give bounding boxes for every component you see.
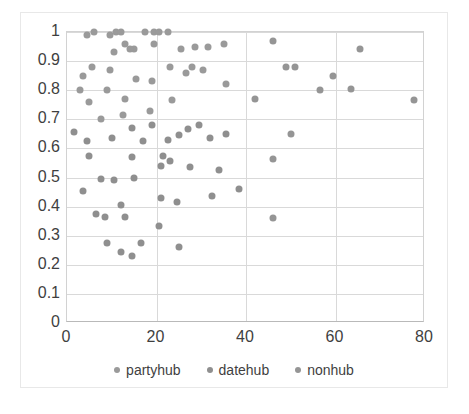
data-point bbox=[160, 152, 167, 159]
data-point bbox=[119, 111, 126, 118]
y-axis-tick-labels: 00.10.20.30.40.50.60.70.80.91 bbox=[0, 31, 60, 322]
data-point bbox=[110, 177, 117, 184]
data-point bbox=[164, 136, 171, 143]
data-point bbox=[184, 126, 191, 133]
data-point bbox=[151, 40, 158, 47]
data-point bbox=[146, 107, 153, 114]
data-point bbox=[117, 249, 124, 256]
data-point bbox=[292, 63, 299, 70]
data-point bbox=[84, 31, 91, 38]
gridline-horizontal bbox=[67, 265, 423, 266]
data-point bbox=[157, 162, 164, 169]
gridline-vertical bbox=[246, 32, 247, 321]
data-point bbox=[90, 29, 97, 36]
data-point bbox=[149, 122, 156, 129]
x-axis-tick-label: 80 bbox=[415, 328, 433, 346]
x-axis-tick-label: 60 bbox=[326, 328, 344, 346]
data-point bbox=[173, 199, 180, 206]
data-point bbox=[269, 214, 276, 221]
data-point bbox=[86, 98, 93, 105]
gridline-horizontal bbox=[67, 90, 423, 91]
gridline-vertical bbox=[157, 32, 158, 321]
data-point bbox=[128, 125, 135, 132]
data-point bbox=[410, 97, 417, 104]
data-point bbox=[77, 87, 84, 94]
data-point bbox=[269, 155, 276, 162]
data-point bbox=[216, 167, 223, 174]
data-point bbox=[155, 29, 162, 36]
data-point bbox=[88, 63, 95, 70]
data-point bbox=[222, 130, 229, 137]
data-point bbox=[209, 193, 216, 200]
y-axis-tick-label: 0.1 bbox=[0, 284, 60, 302]
data-point bbox=[133, 75, 140, 82]
gridline-horizontal bbox=[67, 148, 423, 149]
data-point bbox=[97, 175, 104, 182]
y-axis-tick-label: 0.9 bbox=[0, 51, 60, 69]
data-point bbox=[191, 43, 198, 50]
data-point bbox=[196, 122, 203, 129]
y-axis-tick-label: 0 bbox=[0, 313, 60, 331]
data-point bbox=[110, 49, 117, 56]
data-point bbox=[316, 87, 323, 94]
chart-legend: partyhubdatehubnonhub bbox=[20, 362, 448, 378]
data-point bbox=[175, 244, 182, 251]
data-point bbox=[117, 202, 124, 209]
legend-label: datehub bbox=[219, 362, 270, 378]
data-point bbox=[106, 66, 113, 73]
data-point bbox=[104, 239, 111, 246]
data-point bbox=[236, 186, 243, 193]
gridline-horizontal bbox=[67, 294, 423, 295]
legend-item-datehub[interactable]: datehub bbox=[207, 362, 270, 378]
data-point bbox=[357, 46, 364, 53]
data-point bbox=[222, 81, 229, 88]
y-axis-tick-label: 0.2 bbox=[0, 255, 60, 273]
legend-item-nonhub[interactable]: nonhub bbox=[295, 362, 354, 378]
data-point bbox=[108, 135, 115, 142]
scatter-chart-figure: 00.10.20.30.40.50.60.70.80.91 020406080 … bbox=[0, 0, 469, 414]
data-point bbox=[104, 87, 111, 94]
y-axis-tick-label: 1 bbox=[0, 22, 60, 40]
y-axis-tick-label: 0.7 bbox=[0, 109, 60, 127]
gridline-horizontal bbox=[67, 119, 423, 120]
y-axis-tick-label: 0.5 bbox=[0, 168, 60, 186]
y-axis-tick-label: 0.6 bbox=[0, 138, 60, 156]
plot-area bbox=[66, 31, 424, 322]
x-axis-tick-label: 40 bbox=[236, 328, 254, 346]
data-point bbox=[166, 63, 173, 70]
data-point bbox=[97, 116, 104, 123]
data-point bbox=[102, 213, 109, 220]
data-point bbox=[169, 97, 176, 104]
legend-label: nonhub bbox=[307, 362, 354, 378]
data-point bbox=[220, 40, 227, 47]
data-point bbox=[122, 213, 129, 220]
data-point bbox=[287, 130, 294, 137]
data-point bbox=[70, 129, 77, 136]
data-point bbox=[142, 29, 149, 36]
data-point bbox=[137, 239, 144, 246]
x-axis-tick-label: 0 bbox=[62, 328, 71, 346]
data-point bbox=[164, 29, 171, 36]
legend-dot-icon bbox=[207, 367, 213, 373]
data-point bbox=[131, 174, 138, 181]
x-axis-tick-label: 20 bbox=[147, 328, 165, 346]
data-point bbox=[157, 194, 164, 201]
data-point bbox=[166, 158, 173, 165]
data-point bbox=[128, 154, 135, 161]
data-point bbox=[269, 37, 276, 44]
data-point bbox=[79, 72, 86, 79]
legend-item-partyhub[interactable]: partyhub bbox=[114, 362, 180, 378]
data-point bbox=[93, 210, 100, 217]
gridline-horizontal bbox=[67, 178, 423, 179]
data-point bbox=[189, 63, 196, 70]
data-point bbox=[187, 164, 194, 171]
data-point bbox=[182, 69, 189, 76]
data-point bbox=[155, 223, 162, 230]
legend-label: partyhub bbox=[126, 362, 180, 378]
data-point bbox=[128, 253, 135, 260]
legend-dot-icon bbox=[114, 367, 120, 373]
data-point bbox=[175, 132, 182, 139]
data-point bbox=[283, 63, 290, 70]
y-axis-tick-label: 0.3 bbox=[0, 226, 60, 244]
data-point bbox=[84, 138, 91, 145]
